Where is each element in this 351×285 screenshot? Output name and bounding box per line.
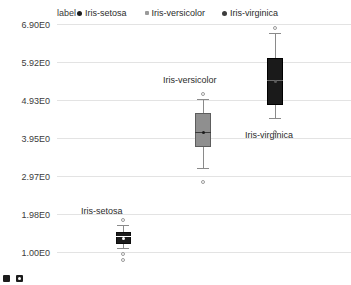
legend-marker-icon [77,11,82,16]
legend-label: Iris-setosa [85,8,127,18]
outlier-point [121,258,125,262]
whisker-cap-upper [197,99,209,100]
outlier-point [121,218,125,222]
boxplot-iris-setosa[interactable] [98,20,148,278]
square-marker-icon[interactable] [3,275,10,282]
y-axis-tick: 1.00E0 [0,248,50,258]
box-iqr [195,113,211,147]
plot-area: 6.90E0 5.92E0 4.93E0 3.95E0 2.97E0 1.98E… [0,20,351,278]
whisker-cap-upper [117,225,129,226]
whisker-cap-upper [269,33,281,34]
series-annotation-iris-versicolor: Iris-versicolor [163,75,217,85]
legend-item-iris-virginica[interactable]: Iris-virginica [222,8,278,18]
chart-controls[interactable] [3,275,23,282]
mean-marker [122,237,125,240]
y-axis-tick: 2.97E0 [0,172,50,182]
legend-item-iris-setosa[interactable]: Iris-setosa [77,8,127,18]
y-axis-tick: 1.98E0 [0,210,50,220]
y-axis-tick: 5.92E0 [0,58,50,68]
series-annotation-iris-virginica: Iris-virginica [245,130,293,140]
mean-marker [202,131,205,134]
legend-title: label [57,8,76,18]
legend-item-iris-versicolor[interactable]: Iris-versicolor [145,8,206,18]
chart-legend: label Iris-setosa Iris-versicolor Iris-v… [0,6,351,20]
boxplot-chart: label Iris-setosa Iris-versicolor Iris-v… [0,0,351,285]
outlier-point [201,180,205,184]
whisker-cap-lower [117,248,129,249]
legend-label: Iris-virginica [230,8,278,18]
mean-marker [274,80,277,83]
y-axis-tick: 4.93E0 [0,96,50,106]
series-annotation-iris-setosa: Iris-setosa [81,206,123,216]
legend-marker-icon [145,11,149,15]
whisker-cap-lower [197,168,209,169]
legend-marker-icon [222,11,227,16]
boxplot-iris-virginica[interactable] [250,20,300,278]
ring-marker-icon[interactable] [16,275,23,282]
outlier-point [201,92,205,96]
y-axis-tick: 3.95E0 [0,134,50,144]
whisker-cap-lower [269,118,281,119]
y-axis-tick: 6.90E0 [0,20,50,30]
outlier-point [273,26,277,30]
boxplot-iris-versicolor[interactable] [178,20,228,278]
legend-label: Iris-versicolor [152,8,206,18]
outlier-point [121,252,125,256]
